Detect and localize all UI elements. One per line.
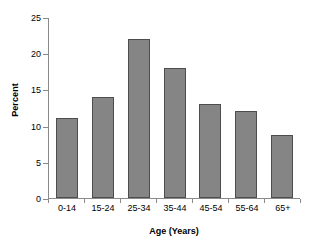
y-tick-label: 15: [31, 86, 41, 95]
bar-slot: [121, 18, 157, 198]
x-tick-mark: [156, 199, 157, 203]
y-tick-mark: [43, 54, 48, 55]
y-tick-label: 25: [31, 14, 41, 23]
x-tick-mark: [48, 199, 49, 203]
bar-slot: [85, 18, 121, 198]
y-tick-label: 5: [36, 158, 41, 167]
x-tick-mark: [264, 199, 265, 203]
x-tick-label: 0-14: [49, 204, 85, 213]
x-tick-mark: [228, 199, 229, 203]
y-tick-mark: [43, 127, 48, 128]
y-tick-mark: [43, 90, 48, 91]
x-tick-label: 15-24: [85, 204, 121, 213]
bar: [164, 68, 186, 198]
bar: [199, 104, 221, 198]
bar: [56, 118, 78, 198]
bar-chart: Percent 0510152025 0-1415-2425-3435-4445…: [0, 0, 316, 251]
x-tick-label: 55-64: [229, 204, 265, 213]
y-axis-title-label: Percent: [10, 83, 20, 117]
bars-layer: [49, 18, 300, 198]
x-tick-label: 45-54: [193, 204, 229, 213]
bar: [235, 111, 257, 198]
x-tick-mark: [192, 199, 193, 203]
y-tick-label: 10: [31, 122, 41, 131]
bar-slot: [264, 18, 300, 198]
y-axis-title: Percent: [4, 0, 26, 199]
y-tick-label: 0: [36, 195, 41, 204]
x-axis-line: [48, 198, 300, 199]
bar-slot: [228, 18, 264, 198]
y-tick-label: 20: [31, 50, 41, 59]
x-tick-mark: [120, 199, 121, 203]
x-tick-mark: [84, 199, 85, 203]
bar: [128, 39, 150, 198]
y-tick-mark: [43, 18, 48, 19]
x-tick-label: 35-44: [157, 204, 193, 213]
bar: [271, 135, 293, 198]
bar-slot: [192, 18, 228, 198]
plot-area: 0510152025: [48, 18, 300, 199]
x-tick-mark: [300, 199, 301, 203]
x-axis-tick-labels: 0-1415-2425-3435-4445-5455-6465+: [49, 204, 301, 213]
bar: [92, 97, 114, 198]
bar-slot: [49, 18, 85, 198]
x-axis-title: Age (Years): [48, 226, 300, 236]
bar-slot: [157, 18, 193, 198]
x-tick-label: 65+: [265, 204, 301, 213]
x-tick-label: 25-34: [121, 204, 157, 213]
y-tick-mark: [43, 163, 48, 164]
